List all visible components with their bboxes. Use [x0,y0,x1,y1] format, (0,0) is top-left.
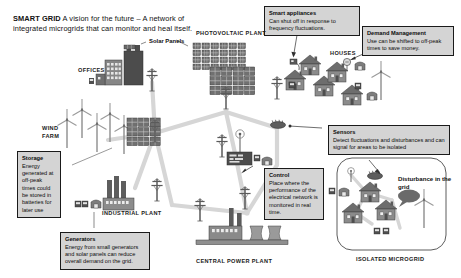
callout-heading: Sensors [333,129,445,136]
sensor-icon [367,171,382,180]
callout-body: Can shut off in response to frequency fl… [269,18,355,33]
callout-body: Detect fluctuations and disturbances and… [333,137,445,152]
sensor-icon [270,120,285,129]
label-disturbance: Disturbance in the grid [398,175,454,190]
callout-body: Energy generated at off-peak times could… [22,163,56,214]
meter-icon [89,78,94,84]
callout-body: Place where the performance of the elect… [269,180,319,216]
caption-central-power-plant: CENTRAL POWER PLANT [196,258,272,264]
label-solar-panels: Solar Panels [149,38,184,44]
callout-body: Energy from small generators and solar p… [65,244,145,266]
transmission-tower-icon [151,179,162,202]
solar-panel-icon [193,43,255,109]
house-icon [329,182,397,234]
callout-sensors[interactable]: Sensors Detect fluctuations and disturba… [328,125,450,155]
callout-heading: Generators [65,236,145,243]
callout-body: Use can be shifted to off-peak times to … [367,38,449,53]
caption-industrial-plant: INDUSTRIAL PLANT [102,210,162,216]
sensors-pointer [289,126,322,128]
smart-appliance-pointer [294,35,297,53]
storage-pointer [72,148,112,165]
house-icon [284,55,377,105]
callout-heading: Demand Management [367,30,449,37]
caption-offices: OFFICES [78,67,105,73]
callout-smart-appliances[interactable]: Smart appliances Can shut off in respons… [264,6,360,36]
callout-demand-management[interactable]: Demand Management Use can be shifted to … [362,26,454,56]
factory-icon [75,176,134,210]
appliance-icon [290,59,299,70]
caption-houses: HOUSES [330,50,356,56]
antenna-icon [236,130,244,152]
transmission-tower-icon [271,77,282,100]
callout-generators[interactable]: Generators Energy from small generators … [60,232,150,270]
callout-heading: Control [269,172,319,179]
callout-heading: Smart appliances [269,10,355,17]
callout-heading: Storage [22,155,56,162]
transmission-tower-icon [239,187,250,210]
transmission-tower-icon [146,69,157,92]
title-lead: SMART GRID [13,14,61,23]
callout-control[interactable]: Control Place where the performance of t… [264,168,324,220]
grid-network-lines [108,82,277,213]
infographic-canvas: SMART GRID A vision for the future – A n… [0,0,461,278]
caption-wind-farm: WIND FARM [42,125,72,140]
callout-storage[interactable]: Storage Energy generated at off-peak tim… [17,151,61,218]
control-center-icon [216,130,272,165]
caption-photovoltaic-plant: PHOTOVOLTAIC PLANT [196,30,266,36]
office-building-icon [89,45,143,85]
page-title: SMART GRID A vision for the future – A n… [13,14,193,34]
caption-isolated-microgrid: ISOLATED MICROGRID [356,256,424,262]
